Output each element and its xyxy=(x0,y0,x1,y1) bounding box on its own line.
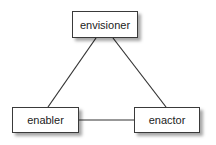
edge-envisioner-enactor xyxy=(113,38,166,107)
node-envisioner: envisioner xyxy=(72,11,138,38)
edge-envisioner-enabler xyxy=(48,38,96,107)
node-enabler-label: enabler xyxy=(27,114,64,126)
node-enabler: enabler xyxy=(12,107,79,133)
node-envisioner-label: envisioner xyxy=(80,19,130,31)
node-enactor: enactor xyxy=(134,107,200,133)
node-enactor-label: enactor xyxy=(149,114,186,126)
